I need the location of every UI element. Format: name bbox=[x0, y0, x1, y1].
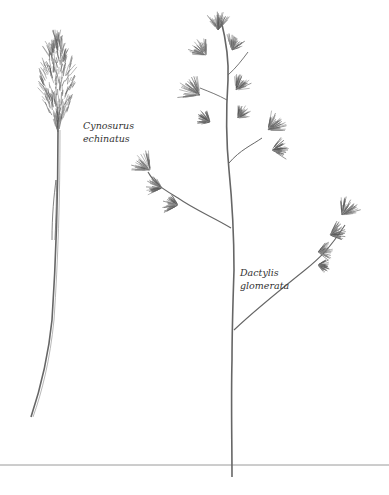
dactylis-plant bbox=[131, 12, 361, 477]
cynosurus-stem bbox=[31, 130, 58, 417]
dactylis-branch-top-left bbox=[200, 88, 227, 100]
cynosurus-spike bbox=[38, 30, 77, 132]
spikelet-bristle bbox=[42, 46, 49, 57]
spikelet-bristle bbox=[48, 108, 52, 115]
spikelet-bristle bbox=[61, 109, 65, 118]
spikelet-bristle bbox=[58, 95, 59, 102]
cynosurus-stem-edge bbox=[33, 130, 60, 417]
spikelet-bristle bbox=[198, 122, 206, 123]
dactylis-main-stem bbox=[221, 20, 234, 477]
spikelet-bristle bbox=[65, 75, 69, 82]
dactylis-genus: Dactylis bbox=[240, 266, 289, 279]
grass-drawing bbox=[0, 0, 389, 495]
dactylis-branch-top-right bbox=[228, 52, 248, 75]
spikelet-bristle bbox=[49, 85, 53, 95]
dactylis-label: Dactylis glomerata bbox=[240, 266, 289, 292]
spikelet-bristle bbox=[70, 67, 77, 76]
spikelet-bristle bbox=[62, 80, 65, 86]
spikelet-bristle bbox=[49, 82, 50, 88]
spikelet-bristle bbox=[59, 104, 60, 110]
cynosurus-label: Cynosurus echinatus bbox=[83, 119, 134, 145]
dactylis-branch-right-upper bbox=[229, 138, 262, 163]
spikelet-bristle bbox=[68, 78, 69, 85]
dactylis-branch-left bbox=[148, 172, 231, 228]
spikelet-bristle bbox=[45, 41, 51, 51]
cynosurus-plant bbox=[31, 30, 77, 417]
cynosurus-genus: Cynosurus bbox=[83, 119, 134, 132]
spikelet-bristle bbox=[65, 86, 68, 96]
illustration-canvas: Cynosurus echinatus Dactylis glomerata bbox=[0, 0, 389, 495]
spikelet-bristle bbox=[69, 77, 72, 82]
cynosurus-epithet: echinatus bbox=[83, 132, 134, 145]
cynosurus-leaf bbox=[52, 180, 56, 240]
spikelet-bristle bbox=[235, 76, 236, 86]
dactylis-epithet: glomerata bbox=[240, 279, 289, 292]
spikelet-bristle bbox=[49, 59, 51, 68]
dactylis-spikelet-clusters bbox=[131, 12, 361, 273]
